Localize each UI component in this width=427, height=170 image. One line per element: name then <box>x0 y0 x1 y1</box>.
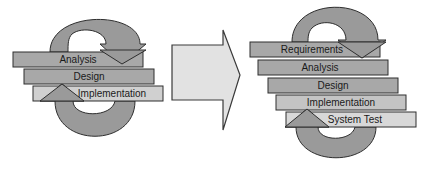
phase-label-requirements: Requirements <box>281 44 343 55</box>
left-lifecycle-diagram: Analysis Design Implementation <box>13 19 163 136</box>
phase-label-design: Design <box>73 71 104 82</box>
phase-label-implementation: Implementation <box>307 97 375 108</box>
phase-label-analysis: Analysis <box>301 62 338 73</box>
phase-label-analysis: Analysis <box>59 54 96 65</box>
transition-arrow-icon <box>172 30 240 130</box>
phase-label-system-test: System Test <box>328 114 382 125</box>
phase-label-implementation: Implementation <box>78 88 146 99</box>
right-lifecycle-diagram: Requirements Analysis Design Implementat… <box>250 7 416 158</box>
lifecycle-diagram: Analysis Design Implementation Requireme… <box>0 0 427 170</box>
phase-label-design: Design <box>317 80 348 91</box>
